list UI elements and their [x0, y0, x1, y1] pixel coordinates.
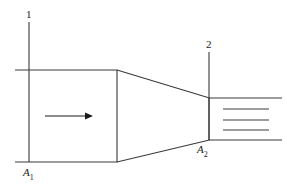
converging-bottom-wall	[117, 140, 210, 162]
flow-direction-arrow	[45, 112, 93, 119]
station-2-label: 2	[206, 39, 212, 50]
nozzle-diagram	[0, 0, 287, 192]
exit-area-label: A2	[197, 144, 208, 158]
station-1-label: 1	[26, 9, 32, 20]
figure-container: 1 2 A1 A2	[0, 0, 287, 192]
inlet-area-symbol: A	[23, 166, 30, 178]
inlet-area-subscript: 1	[30, 173, 34, 182]
inlet-area-label: A1	[23, 167, 34, 181]
converging-top-wall	[117, 70, 210, 98]
exit-area-symbol: A	[197, 143, 204, 155]
flow-arrow-head	[85, 112, 93, 119]
exit-area-subscript: 2	[204, 150, 208, 159]
